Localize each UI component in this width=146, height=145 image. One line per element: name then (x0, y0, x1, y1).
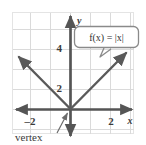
graph-screenshot: 4 2 –2 2 y x f(x) = |x| vertex (0, 0, 146, 145)
callout-label: f(x) = |x| (89, 32, 124, 44)
y-axis-label: y (76, 15, 82, 26)
x-tick-label-minus-2: –2 (24, 115, 37, 127)
x-tick-label-2: 2 (108, 115, 114, 127)
y-tick-label-4: 4 (57, 42, 63, 54)
vertex-label: vertex (15, 131, 43, 143)
absolute-value-graph-figure: 4 2 –2 2 y x f(x) = |x| vertex (0, 0, 146, 145)
x-axis-label: x (127, 115, 133, 126)
y-tick-label-2: 2 (57, 82, 63, 94)
